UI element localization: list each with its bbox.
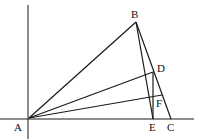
label-F: F	[156, 98, 162, 109]
segment-AD	[29, 72, 153, 118]
label-B: B	[131, 9, 138, 20]
label-A: A	[14, 122, 22, 133]
diagram-canvas	[0, 0, 200, 139]
geometry-diagram: A B C D E F	[0, 0, 200, 139]
label-C: C	[167, 122, 174, 133]
label-E: E	[149, 122, 156, 133]
segment-AF	[29, 95, 162, 118]
label-D: D	[157, 63, 165, 74]
segment-BE	[136, 22, 153, 119]
segment-AB	[29, 22, 136, 118]
